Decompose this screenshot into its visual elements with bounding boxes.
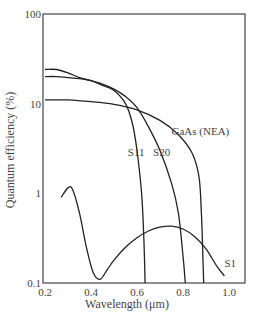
chart-canvas: 0.1110100 0.20.40.60.81.0 GaAs (NEA)S11S… — [0, 0, 254, 319]
series-label-s11: S11 — [128, 146, 145, 158]
y-axis-label: Quantum efficiency (%) — [3, 92, 17, 208]
series-group — [45, 69, 224, 283]
y-tick-label: 10 — [30, 98, 42, 110]
x-tick-label: 1.0 — [222, 286, 236, 298]
y-tick-label: 1 — [36, 187, 42, 199]
series-label-s20: S20 — [153, 146, 171, 158]
series-label-gaas-nea: GaAs (NEA) — [172, 125, 230, 138]
y-tick-label: 100 — [25, 8, 42, 20]
quantum-efficiency-chart: 0.1110100 0.20.40.60.81.0 GaAs (NEA)S11S… — [0, 0, 254, 319]
series-line-s20 — [45, 69, 185, 283]
y-axis: 0.1110100 — [25, 8, 42, 289]
x-axis-label: Wavelength (μm) — [85, 297, 169, 311]
x-tick-label: 0.2 — [38, 286, 52, 298]
series-label-s1: S1 — [224, 257, 236, 269]
x-tick-label: 0.8 — [176, 286, 190, 298]
